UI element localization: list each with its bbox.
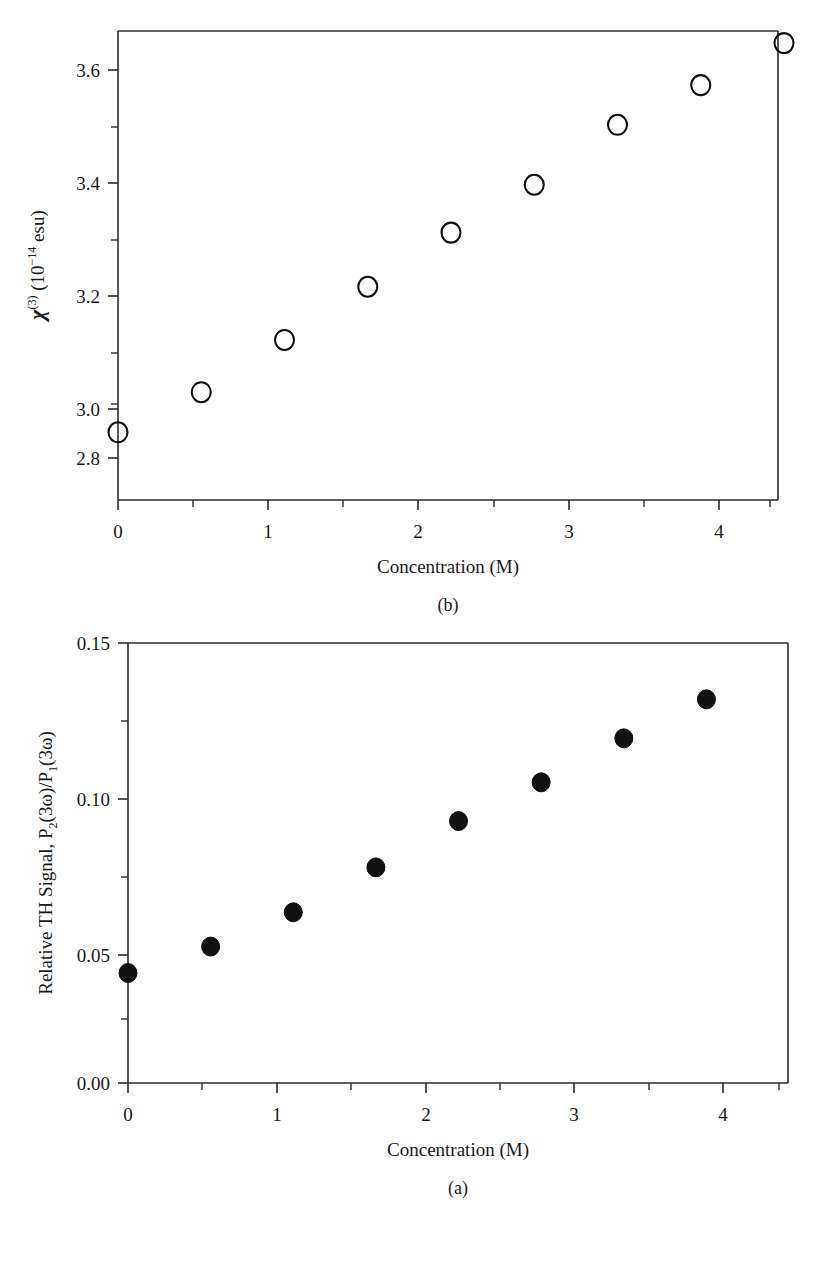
data-point — [367, 858, 385, 877]
x-tick-label-b-2: 2 — [413, 521, 423, 542]
y-ticks-group-b — [108, 70, 118, 458]
data-point — [284, 903, 302, 922]
data-point — [697, 690, 715, 709]
y-tick-label-a-0-15: 0.15 — [77, 633, 110, 654]
data-points-a — [119, 690, 715, 983]
y-tick-label-b-2-8: 2.8 — [76, 448, 100, 469]
y-tick-label-b-3-2: 3.2 — [76, 286, 100, 307]
scatter-plot-b: 3.6 3.4 3.2 3.0 2.8 0 1 2 3 4 χ(3) (10−1… — [0, 0, 818, 630]
panel-caption-a: (a) — [448, 1178, 468, 1199]
x-axis-label-a: Concentration (M) — [387, 1139, 529, 1161]
chi-superscript: (3) — [25, 296, 39, 310]
chi-symbol: χ — [24, 309, 49, 323]
ylabel-mid: (3ω)/P — [35, 772, 57, 823]
x-tick-label-b-4: 4 — [714, 521, 724, 542]
ylabel-tail: (3ω) — [35, 731, 57, 766]
scatter-plot-a: 0.15 0.10 0.05 0.00 0 1 2 3 4 Relative T… — [0, 630, 818, 1261]
panel-caption-b: (b) — [438, 595, 459, 616]
units-exponent: −14 — [25, 247, 39, 266]
y-ticks-group-a — [118, 643, 128, 1083]
data-point — [275, 330, 294, 350]
x-tick-label-a-2: 2 — [421, 1104, 431, 1125]
data-point — [450, 812, 468, 831]
data-point — [358, 277, 377, 297]
units-suffix: esu) — [27, 210, 49, 246]
y-tick-label-b-3-4: 3.4 — [76, 173, 100, 194]
y-axis-label-a: Relative TH Signal, P2(3ω)/P1(3ω) — [35, 731, 60, 995]
y-tick-label-a-0-10: 0.10 — [77, 789, 110, 810]
x-tick-label-b-1: 1 — [263, 521, 273, 542]
x-tick-label-a-0: 0 — [123, 1104, 133, 1125]
y-tick-label-a-0-00: 0.00 — [77, 1073, 110, 1094]
ylabel-lead: Relative TH Signal, P — [35, 828, 56, 994]
x-tick-label-b-0: 0 — [113, 521, 123, 542]
data-points-b — [109, 33, 794, 442]
y-tick-label-b-3-6: 3.6 — [76, 60, 100, 81]
data-point — [525, 175, 544, 195]
data-point — [119, 964, 137, 983]
chart-panel-a: 0.15 0.10 0.05 0.00 0 1 2 3 4 Relative T… — [0, 630, 818, 1261]
data-point — [691, 75, 710, 95]
data-point — [192, 382, 211, 402]
y-axis-label-b: χ(3) (10−14 esu) — [24, 210, 49, 323]
x-ticks-group-a — [128, 1083, 779, 1093]
x-axis-label-b: Concentration (M) — [377, 556, 519, 578]
chart-panel-b: 3.6 3.4 3.2 3.0 2.8 0 1 2 3 4 χ(3) (10−1… — [0, 0, 818, 630]
units-prefix: (10 — [27, 265, 49, 295]
x-tick-label-a-4: 4 — [718, 1104, 728, 1125]
data-point — [608, 115, 627, 135]
data-point — [442, 223, 461, 243]
y-tick-label-a-0-05: 0.05 — [77, 945, 110, 966]
y-tick-label-b-3-0: 3.0 — [76, 399, 100, 420]
x-tick-label-a-1: 1 — [272, 1104, 282, 1125]
data-point — [615, 729, 633, 748]
x-tick-label-b-3: 3 — [564, 521, 574, 542]
x-tick-label-a-3: 3 — [569, 1104, 579, 1125]
data-point — [532, 773, 550, 792]
figure-page: 3.6 3.4 3.2 3.0 2.8 0 1 2 3 4 χ(3) (10−1… — [0, 0, 818, 1261]
data-point — [202, 937, 220, 956]
x-ticks-group-b — [118, 500, 770, 510]
